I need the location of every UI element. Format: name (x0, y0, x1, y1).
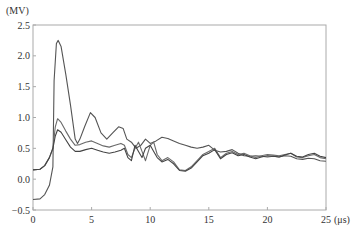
series-group (33, 40, 326, 199)
y-tick-label: 2.0 (18, 50, 31, 61)
x-axis-unit-label: (μs) (334, 214, 350, 226)
x-tick-label: 15 (204, 214, 214, 225)
y-tick-label: −0.5 (12, 205, 30, 216)
x-tick-label: 25 (321, 214, 331, 225)
y-tick-label: 0.0 (18, 174, 31, 185)
x-tick-label: 5 (89, 214, 94, 225)
x-tick-label: 20 (262, 214, 272, 225)
line-chart: −0.50.00.51.01.52.02.5 0510152025 (MV) (… (0, 0, 362, 240)
y-axis-ticks: −0.50.00.51.01.52.02.5 (12, 20, 36, 216)
y-tick-label: 2.5 (18, 20, 31, 31)
y-tick-label: 0.5 (18, 143, 31, 154)
series-line-curve-3 (33, 130, 326, 171)
y-tick-label: 1.5 (18, 81, 31, 92)
y-axis-unit-label: (MV) (6, 5, 29, 17)
y-tick-label: 1.0 (18, 112, 31, 123)
x-tick-label: 0 (31, 214, 36, 225)
series-line-curve-1 (33, 40, 326, 199)
x-tick-label: 10 (145, 214, 155, 225)
plot-frame (33, 25, 326, 210)
series-line-curve-2 (33, 119, 326, 171)
